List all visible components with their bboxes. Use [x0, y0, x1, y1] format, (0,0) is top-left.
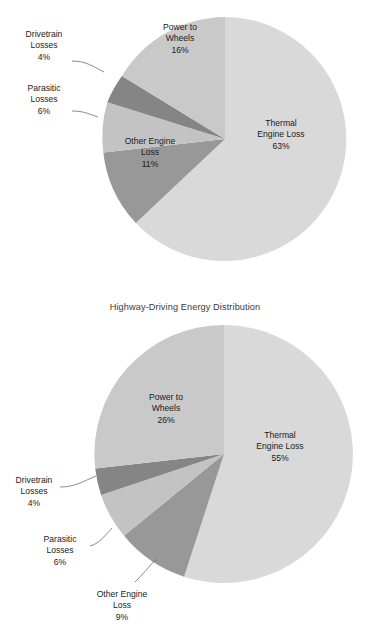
pie-chart-highway-driving: Highway-Driving Energy Distribution Driv…	[0, 282, 370, 636]
pie-label-other-engine-loss: Other Engine Loss 9%	[74, 589, 170, 623]
leader-line-other-engine	[135, 559, 156, 582]
pie-label-parasitic-losses: Parasitic Losses 6%	[28, 534, 92, 568]
pie-label-drivetrain-losses: Drivetrain Losses 4%	[0, 475, 68, 509]
leader-line-parasitic	[90, 528, 112, 546]
pie-label-thermal-engine-loss: Thermal Engine Loss 55%	[232, 430, 328, 464]
pie-label-thermal-engine-loss: Thermal Engine Loss 63%	[233, 118, 329, 152]
pie-label-other-engine-loss: Other Engine Loss 11%	[100, 136, 200, 170]
pie-label-power-to-wheels: Power to Wheels 16%	[140, 22, 220, 56]
pie-chart-city-driving: Drivetrain Losses 4% Parasitic Losses 6%…	[0, 0, 370, 282]
pie-label-power-to-wheels: Power to Wheels 26%	[124, 392, 208, 426]
pie-label-drivetrain-losses: Drivetrain Losses 4%	[8, 29, 80, 63]
pie-label-parasitic-losses: Parasitic Losses 6%	[8, 83, 80, 117]
